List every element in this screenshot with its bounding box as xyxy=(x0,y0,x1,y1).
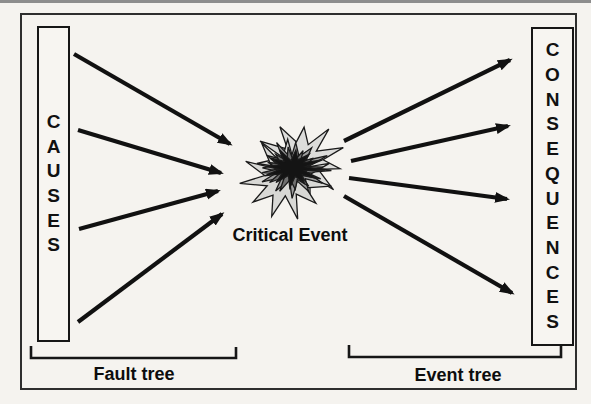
diagram-canvas xyxy=(0,0,591,404)
cause-arrows xyxy=(74,54,230,322)
causes-letter: A xyxy=(47,135,61,160)
consequence-arrow-2 xyxy=(351,126,508,161)
causes-letter: U xyxy=(47,159,61,184)
consequences-letter: E xyxy=(546,137,559,162)
consequences-letter: E xyxy=(546,285,559,310)
causes-letter: S xyxy=(47,233,60,258)
fault-tree-label: Fault tree xyxy=(34,364,234,385)
cause-arrow-3 xyxy=(79,191,218,229)
consequences-box: C O N S E Q U E N C E S xyxy=(531,27,574,346)
consequences-letter: C xyxy=(546,261,560,286)
consequence-arrow-3 xyxy=(349,178,507,199)
consequences-letter: S xyxy=(546,310,559,335)
consequences-letter: N xyxy=(546,88,560,113)
consequences-letter: O xyxy=(545,63,560,88)
consequences-letter: C xyxy=(546,38,560,63)
event-tree-label: Event tree xyxy=(358,365,558,386)
consequence-arrow-1 xyxy=(344,60,510,141)
causes-letter: E xyxy=(47,209,60,234)
causes-letter: S xyxy=(47,184,60,209)
consequences-letter: Q xyxy=(545,162,560,187)
consequence-arrows xyxy=(344,60,512,293)
cause-arrow-1 xyxy=(74,54,230,144)
bowtie-diagram: C A U S E S C O N S E Q U E N C E S Crit… xyxy=(0,0,591,404)
critical-event-label: Critical Event xyxy=(190,225,390,246)
critical-event-starburst xyxy=(240,127,344,219)
cause-arrow-2 xyxy=(78,130,221,173)
fault-tree-bracket xyxy=(31,346,236,358)
causes-letter: C xyxy=(47,110,61,135)
consequences-letter: N xyxy=(546,236,560,261)
consequences-letter: E xyxy=(546,211,559,236)
event-tree-bracket xyxy=(349,345,561,357)
consequences-letter: S xyxy=(546,112,559,137)
causes-box: C A U S E S xyxy=(37,26,70,342)
consequences-letter: U xyxy=(546,187,560,212)
